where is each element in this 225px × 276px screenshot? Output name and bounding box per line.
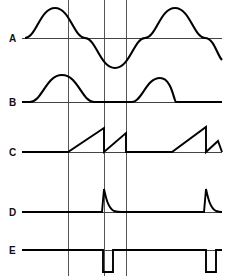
trace-b-group: B [9, 75, 222, 108]
trace-b-label: B [9, 97, 16, 108]
trace-c-group: C [9, 127, 222, 158]
waveform-figure: A B C D E [0, 0, 225, 276]
trace-b-waveform [22, 75, 222, 102]
trace-d-group: D [9, 189, 222, 218]
trace-a-group: A [9, 8, 222, 68]
gridline-group [69, 0, 127, 276]
trace-e-label: E [9, 245, 16, 256]
trace-c-label: C [9, 147, 16, 158]
trace-a-label: A [9, 33, 16, 44]
trace-e-waveform [22, 250, 222, 272]
trace-e-group: E [9, 245, 222, 272]
trace-d-label: D [9, 207, 16, 218]
trace-c-waveform [22, 127, 222, 152]
trace-d-waveform [22, 189, 222, 212]
waveform-diagram: A B C D E [0, 0, 225, 276]
